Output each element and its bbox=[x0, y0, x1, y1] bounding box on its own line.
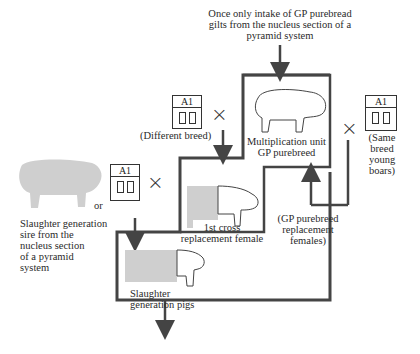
or-label: or bbox=[94, 200, 103, 211]
ai-box-slaughter-sire: A1 bbox=[110, 164, 140, 201]
ai-box-different-breed: A1 bbox=[172, 95, 202, 129]
pyramid-flow-diagram bbox=[0, 0, 420, 354]
gp-replacement-label: (GP purebreed replacement females) bbox=[270, 213, 346, 246]
top-note: Once only intake of GP purebread gilts f… bbox=[190, 8, 370, 41]
vial-icon bbox=[189, 112, 196, 124]
first-cross-label: 1st cross replacement female bbox=[180, 222, 264, 244]
ai-box-same-breed: A1 bbox=[365, 95, 397, 131]
vial-icon bbox=[127, 181, 134, 193]
slaughter-sire-label: Slaughter generation sire from the nucle… bbox=[20, 218, 107, 273]
same-breed-label: (Same breed young boars) bbox=[360, 132, 404, 176]
cross-symbol: × bbox=[341, 118, 358, 138]
slaughter-sire-pig-icon bbox=[19, 159, 101, 208]
cross-symbol: × bbox=[211, 104, 228, 124]
cross-symbol: × bbox=[147, 172, 164, 192]
vial-icon bbox=[117, 181, 124, 193]
vial-icon bbox=[383, 112, 390, 124]
slaughter-generation-pig-icon bbox=[125, 250, 204, 286]
vial-icon bbox=[372, 112, 379, 124]
gp-purebreed-pig-icon bbox=[255, 90, 325, 132]
multiplication-label: Multiplication unit GP purebreed bbox=[243, 136, 330, 158]
different-breed-label: (Different breed) bbox=[140, 130, 211, 141]
slaughter-pigs-label: Slaughter generation pigs bbox=[130, 288, 194, 310]
vial-icon bbox=[179, 112, 186, 124]
